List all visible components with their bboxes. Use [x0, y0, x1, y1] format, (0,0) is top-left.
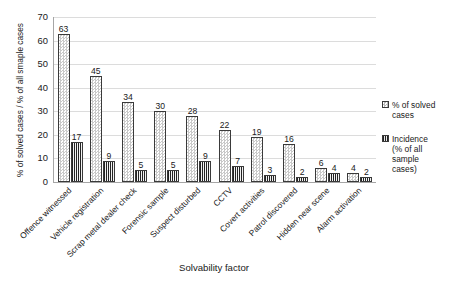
bar-value-label: 5 — [171, 161, 176, 170]
legend-label: % of solved cases — [392, 100, 456, 120]
bar-value-label: 16 — [284, 135, 294, 144]
bar-chart-figure: % of solved cases / % of all smaple case… — [0, 0, 456, 290]
bar-value-label: 45 — [91, 67, 101, 76]
bar-group: 193 — [247, 17, 279, 182]
y-tick-label: 50 — [22, 59, 48, 68]
bar-group: 6317 — [54, 17, 86, 182]
bar-value-label: 34 — [123, 93, 133, 102]
y-tick-label: 20 — [22, 130, 48, 139]
legend-entry: Incidence (% of all sample cases) — [382, 134, 456, 174]
bar-value-label: 22 — [220, 121, 230, 130]
legend-entry: % of solved cases — [382, 100, 456, 120]
x-tick-cell: Alarm activation — [343, 184, 375, 256]
hatch-dark-swatch — [382, 135, 389, 142]
bar-solved: 63 — [58, 34, 70, 183]
y-tick-label: 30 — [22, 106, 48, 115]
x-axis-title: Solvability factor — [53, 262, 375, 273]
y-tick-label: 70 — [22, 12, 48, 21]
bar-value-label: 28 — [188, 107, 198, 116]
y-tick-label: 0 — [22, 177, 48, 186]
y-tick-label: 10 — [22, 153, 48, 162]
bar-value-label: 4 — [332, 164, 337, 173]
y-tick-label: 40 — [22, 83, 48, 92]
x-axis-ticks: Offence witnessedVehicle registrationScr… — [53, 184, 375, 256]
legend-label: Incidence (% of all sample cases) — [392, 134, 456, 174]
checker-light-swatch — [382, 101, 389, 108]
x-tick-cell: Suspect disturbed — [182, 184, 214, 256]
bar-solved: 19 — [251, 137, 263, 182]
bar-value-label: 63 — [59, 25, 69, 34]
y-tick-label: 60 — [22, 36, 48, 45]
bar-value-label: 17 — [72, 133, 82, 142]
chart-legend: % of solved casesIncidence (% of all sam… — [382, 100, 456, 188]
bar-value-label: 30 — [155, 102, 165, 111]
bar-value-label: 19 — [252, 128, 262, 137]
y-axis-ticks: 010203040506070 — [18, 0, 48, 290]
bar-value-label: 5 — [139, 161, 144, 170]
